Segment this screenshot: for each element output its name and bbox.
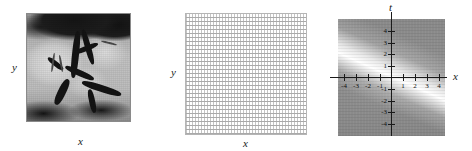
plot-x-tick-label: 2 [413, 83, 417, 90]
plot-y-tick-mark [388, 66, 395, 67]
plot-panel-t-axis-label: t [389, 2, 392, 13]
grid-panel-x-axis-label: x [243, 138, 248, 149]
plot-y-tick-label: 3 [378, 40, 387, 47]
plot-horizontal-axis [330, 77, 447, 78]
plot-y-tick-mark [388, 54, 395, 55]
image-panel-grain [27, 14, 130, 121]
plot-y-tick-label: -1 [378, 86, 387, 93]
plot-x-tick-mark [344, 74, 345, 81]
plot-x-tick-label: 4 [437, 83, 441, 90]
plot-y-tick-label: -4 [378, 121, 387, 128]
plot-y-tick-label: 4 [378, 28, 387, 35]
plot-panel-x-axis-label: x [453, 71, 458, 82]
image-panel-y-axis-label: y [12, 62, 17, 73]
plot-y-tick-mark [388, 31, 395, 32]
grid-panel-y-axis-label: y [171, 67, 176, 78]
grid-panel [185, 13, 307, 135]
image-panel-x-axis-label: x [78, 136, 83, 147]
plot-y-tick-label: 2 [378, 51, 387, 58]
plot-y-tick-mark [388, 43, 395, 44]
plot-x-tick-label: -4 [341, 83, 347, 90]
plot-y-tick-mark [388, 124, 395, 125]
plot-y-tick-mark [388, 101, 395, 102]
figure-container: y x y x -4-3-2-112344321-1-2-3-4 t x [0, 0, 472, 151]
plot-x-tick-label: -3 [353, 83, 359, 90]
image-panel [26, 13, 131, 122]
plot-y-tick-label: -2 [378, 98, 387, 105]
plot-y-tick-mark [388, 112, 395, 113]
plot-x-tick-mark [403, 74, 404, 81]
plot-y-tick-mark [388, 89, 395, 90]
plot-x-tick-mark [380, 74, 381, 81]
plot-x-tick-label: 3 [425, 83, 429, 90]
grid-panel-mesh [186, 14, 306, 134]
plot-x-tick-mark [415, 74, 416, 81]
plot-x-tick-mark [356, 74, 357, 81]
plot-x-tick-label: -2 [365, 83, 371, 90]
plot-y-tick-label: -3 [378, 109, 387, 116]
plot-x-tick-mark [368, 74, 369, 81]
plot-x-tick-mark [439, 74, 440, 81]
plot-x-tick-mark [427, 74, 428, 81]
plot-x-tick-label: 1 [401, 83, 405, 90]
plot-y-tick-label: 1 [378, 63, 387, 70]
